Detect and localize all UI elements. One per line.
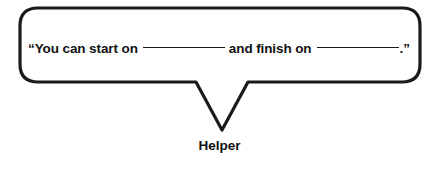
close-quote: ”: [403, 41, 410, 56]
bubble-text-part-2: and finish on: [229, 41, 312, 56]
open-quote: “: [28, 41, 35, 56]
bubble-text-part-1: You can start on: [35, 41, 138, 56]
bubble-text: “You can start onand finish on.”: [28, 35, 412, 61]
blank-field-2[interactable]: [317, 47, 399, 48]
bubble-path: [20, 8, 420, 130]
speech-bubble-diagram: “You can start onand finish on.” Helper: [0, 0, 439, 173]
speaker-label: Helper: [0, 138, 439, 153]
blank-field-1[interactable]: [143, 47, 225, 48]
